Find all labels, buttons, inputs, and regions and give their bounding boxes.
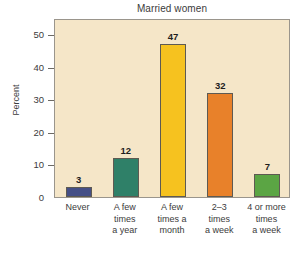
bar <box>160 44 186 197</box>
bar-slot: 12 <box>113 20 139 197</box>
plot-area: 31247327 <box>54 19 290 198</box>
y-axis-tick-label: 0 <box>39 192 44 203</box>
x-axis-category-label: 4 or more times a week <box>239 202 294 237</box>
y-axis-tick-label: 10 <box>33 159 44 170</box>
y-axis-tick-label: 20 <box>33 127 44 138</box>
y-axis-tick-label: 30 <box>33 94 44 105</box>
bar <box>254 174 280 197</box>
y-axis-tick-label: 50 <box>33 29 44 40</box>
bar-slot: 32 <box>207 20 233 197</box>
bar <box>66 187 92 197</box>
bar-slot: 3 <box>66 20 92 197</box>
bar-slot: 7 <box>254 20 280 197</box>
bar <box>207 93 233 197</box>
y-axis-tick-label: 40 <box>33 62 44 73</box>
chart-title: Married women <box>54 3 290 14</box>
bar-value-label: 47 <box>148 31 198 42</box>
bar <box>113 158 139 197</box>
chart-page: Married women Percent 01020304050 312473… <box>0 0 306 253</box>
bar-value-label: 3 <box>54 174 104 185</box>
y-axis-label: Percent <box>11 72 21 128</box>
bar-value-label: 12 <box>101 145 151 156</box>
bar-value-label: 7 <box>242 161 292 172</box>
bar-slot: 47 <box>160 20 186 197</box>
bar-value-label: 32 <box>195 80 245 91</box>
